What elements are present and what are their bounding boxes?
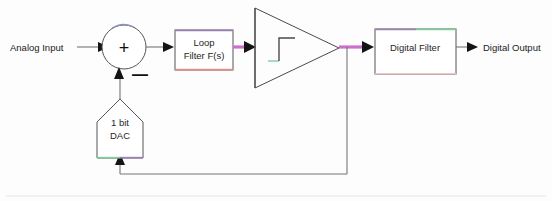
canvas-background — [0, 0, 552, 201]
dac-label-line2: DAC — [110, 130, 130, 141]
sum-plus-sign: + — [119, 38, 130, 58]
dac-label-line1: 1 bit — [111, 117, 129, 128]
sum-minus-sign: — — [132, 66, 148, 83]
digital-output-label: Digital Output — [483, 42, 541, 53]
loop-filter-label-line1: Loop — [193, 37, 214, 48]
loop-filter-label-line2: Filter F(s) — [184, 50, 225, 61]
digital-filter-label: Digital Filter — [390, 42, 440, 53]
delta-sigma-adc-diagram: Analog Input + — Loop Filter F(s) — [0, 0, 552, 201]
diagram-canvas: Analog Input + — Loop Filter F(s) — [0, 0, 552, 201]
analog-input-label: Analog Input — [10, 42, 64, 53]
